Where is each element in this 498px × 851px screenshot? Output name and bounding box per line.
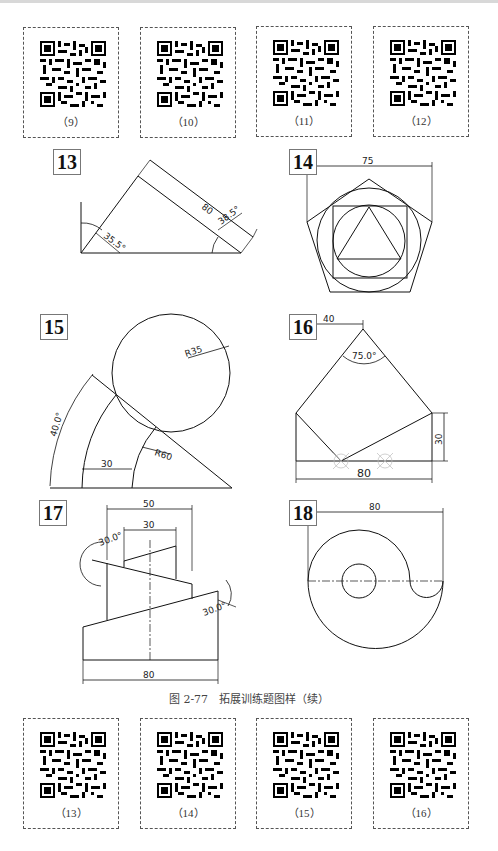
svg-text:75.0°: 75.0°: [352, 351, 377, 361]
svg-text:R60: R60: [153, 447, 173, 462]
figure-13-drawing: 80 35.5° 38.5°: [81, 160, 257, 253]
qr-card-14: （14）: [140, 718, 236, 829]
svg-text:80: 80: [369, 502, 381, 512]
figure-15-drawing: 30 R60 R35 40.0°: [48, 314, 232, 488]
svg-text:40.0°: 40.0°: [48, 411, 64, 437]
svg-text:30: 30: [434, 433, 444, 445]
qr-card-15: （15）: [256, 718, 352, 829]
qr-caption: （14）: [141, 804, 235, 820]
figure-number-14: 14: [289, 149, 317, 175]
figure-16-drawing: 40 75.0° 30 80: [296, 314, 448, 483]
figure-number-13: 13: [53, 149, 81, 175]
figure-number-18: 18: [289, 500, 317, 526]
svg-text:30: 30: [101, 459, 113, 469]
qr-code-icon: [390, 732, 456, 798]
figure-number-16: 16: [289, 314, 317, 340]
figure-18-drawing: 80: [308, 502, 443, 649]
figure-number-15: 15: [40, 314, 68, 340]
svg-text:38.5°: 38.5°: [216, 204, 242, 227]
svg-text:35.5°: 35.5°: [102, 231, 128, 254]
svg-text:80: 80: [143, 670, 155, 680]
qr-caption: （13）: [24, 804, 118, 820]
svg-text:30: 30: [143, 520, 155, 530]
svg-text:R35: R35: [184, 344, 204, 359]
svg-text:40: 40: [323, 314, 335, 324]
figure-14-drawing: 75: [307, 156, 432, 292]
svg-text:75: 75: [362, 156, 373, 166]
figure-caption: 图 2-77 拓展训练题图样（续）: [0, 690, 498, 706]
svg-text:30.0°: 30.0°: [97, 530, 123, 548]
qr-code-icon: [273, 732, 339, 798]
figure-17-drawing: 50 30 30.0° 30.0° 80: [80, 499, 236, 684]
svg-text:80: 80: [357, 467, 371, 480]
qr-caption: （16）: [374, 804, 468, 820]
svg-text:80: 80: [200, 202, 215, 217]
qr-caption: （15）: [257, 804, 351, 820]
qr-card-13: （13）: [23, 718, 119, 829]
qr-code-icon: [40, 732, 106, 798]
svg-text:30.0°: 30.0°: [201, 600, 227, 618]
qr-card-16: （16）: [373, 718, 469, 829]
qr-code-icon: [157, 732, 223, 798]
svg-text:50: 50: [143, 499, 155, 509]
figure-number-17: 17: [39, 500, 67, 526]
